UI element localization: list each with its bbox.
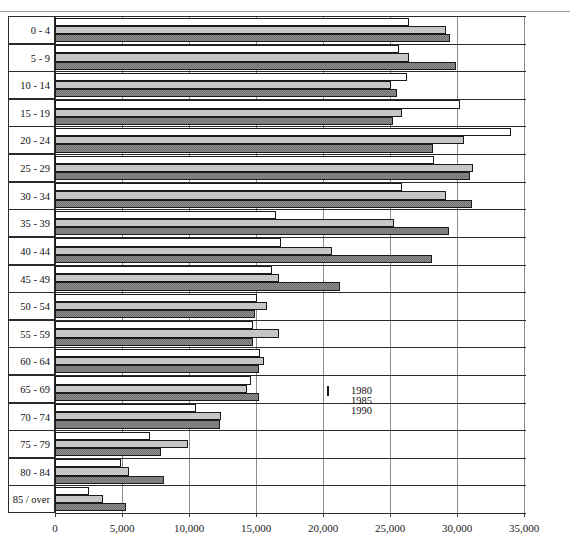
row-separator xyxy=(55,513,526,514)
y-label-15---19: 15 - 19 xyxy=(8,99,55,127)
bar-1990-60---64 xyxy=(55,365,259,373)
bar-1990-20---24 xyxy=(55,144,433,152)
bar-1980-15---19 xyxy=(55,100,460,108)
x-tick-label: 10,000 xyxy=(154,522,224,534)
y-label-85-over: 85 / over xyxy=(8,485,55,513)
x-tick-label: 20,000 xyxy=(288,522,358,534)
bar-1980-85-over xyxy=(55,487,89,495)
bar-1990-45---49 xyxy=(55,282,340,290)
row-separator xyxy=(55,458,526,459)
bar-1985-70---74 xyxy=(55,412,221,420)
bar-1990-65---69 xyxy=(55,393,259,401)
x-tick-label: 30,000 xyxy=(422,522,492,534)
y-label-10---14: 10 - 14 xyxy=(8,71,55,99)
bar-1980-5---9 xyxy=(55,45,399,53)
y-label-20---24: 20 - 24 xyxy=(8,126,55,154)
bar-1985-0---4 xyxy=(55,26,446,34)
legend-label-1990: 1990 xyxy=(351,406,372,416)
y-label-0---4: 0 - 4 xyxy=(8,16,55,44)
y-label-55---59: 55 - 59 xyxy=(8,320,55,348)
bar-1985-40---44 xyxy=(55,247,332,255)
y-label-30---34: 30 - 34 xyxy=(8,182,55,210)
bar-1990-25---29 xyxy=(55,172,470,180)
bar-1985-10---14 xyxy=(55,81,391,89)
y-label-5---9: 5 - 9 xyxy=(8,44,55,72)
bar-1990-15---19 xyxy=(55,117,393,125)
bar-1985-85-over xyxy=(55,495,103,503)
bar-1985-65---69 xyxy=(55,385,247,393)
bar-1990-55---59 xyxy=(55,338,253,346)
bar-1980-30---34 xyxy=(55,183,402,191)
x-tick-label: 0 xyxy=(20,522,90,534)
bar-1980-75---79 xyxy=(55,432,150,440)
x-tick-label: 25,000 xyxy=(355,522,425,534)
bar-1985-30---34 xyxy=(55,191,446,199)
bar-1985-75---79 xyxy=(55,440,188,448)
bar-1980-60---64 xyxy=(55,349,260,357)
page-caption xyxy=(0,0,570,6)
y-label-40---44: 40 - 44 xyxy=(8,237,55,265)
bar-1985-15---19 xyxy=(55,109,402,117)
bar-1990-35---39 xyxy=(55,227,449,235)
bar-1980-70---74 xyxy=(55,404,196,412)
bar-1985-55---59 xyxy=(55,329,279,337)
bar-1990-40---44 xyxy=(55,255,432,263)
bar-1980-55---59 xyxy=(55,321,253,329)
bar-1980-50---54 xyxy=(55,294,257,302)
bar-1980-80---84 xyxy=(55,459,121,467)
bar-1985-60---64 xyxy=(55,357,264,365)
bar-1980-10---14 xyxy=(55,73,407,81)
y-label-35---39: 35 - 39 xyxy=(8,209,55,237)
y-label-25---29: 25 - 29 xyxy=(8,154,55,182)
y-label-60---64: 60 - 64 xyxy=(8,347,55,375)
bar-1980-0---4 xyxy=(55,18,409,26)
legend-texts: 1980 1985 1990 xyxy=(351,386,372,416)
bar-1985-50---54 xyxy=(55,302,267,310)
y-label-75---79: 75 - 79 xyxy=(8,430,55,458)
y-label-80---84: 80 - 84 xyxy=(8,458,55,486)
chart-legend: 1980 1985 1990 xyxy=(327,386,372,416)
bar-1990-50---54 xyxy=(55,310,255,318)
legend-swatch-1990 xyxy=(327,386,329,396)
x-tick-label: 5,000 xyxy=(87,522,157,534)
y-label-50---54: 50 - 54 xyxy=(8,292,55,320)
bar-1990-5---9 xyxy=(55,62,456,70)
y-label-70---74: 70 - 74 xyxy=(8,403,55,431)
bar-1980-40---44 xyxy=(55,238,281,246)
y-label-65---69: 65 - 69 xyxy=(8,375,55,403)
bar-1985-20---24 xyxy=(55,136,464,144)
bar-1985-45---49 xyxy=(55,274,279,282)
bar-1985-80---84 xyxy=(55,467,129,475)
bar-1990-85-over xyxy=(55,503,126,511)
x-tick-label: 15,000 xyxy=(221,522,291,534)
bar-1985-25---29 xyxy=(55,164,473,172)
row-separator xyxy=(55,485,526,486)
x-tick-label: 35,000 xyxy=(489,522,559,534)
bar-1990-10---14 xyxy=(55,89,397,97)
header-rule xyxy=(0,11,570,12)
bar-1985-5---9 xyxy=(55,53,409,61)
bar-1990-70---74 xyxy=(55,420,220,428)
bar-1980-45---49 xyxy=(55,266,272,274)
bar-1980-25---29 xyxy=(55,156,434,164)
row-separator xyxy=(55,126,526,127)
bar-1985-35---39 xyxy=(55,219,394,227)
bar-1990-0---4 xyxy=(55,34,450,42)
bar-1990-75---79 xyxy=(55,448,161,456)
y-label-45---49: 45 - 49 xyxy=(8,265,55,293)
chart-page: 05,00010,00015,00020,00025,00030,00035,0… xyxy=(0,0,570,558)
bar-1990-80---84 xyxy=(55,476,164,484)
bar-1990-30---34 xyxy=(55,200,472,208)
bar-1980-20---24 xyxy=(55,128,511,136)
bar-1980-35---39 xyxy=(55,211,276,219)
bar-1980-65---69 xyxy=(55,376,251,384)
